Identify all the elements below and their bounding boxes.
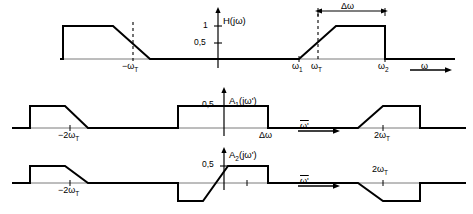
plot-h-xlabel-omega1-text: ω xyxy=(292,61,299,71)
plot-h-trace xyxy=(60,26,455,59)
plot-a2-ytick-label-half: 0,5 xyxy=(202,160,214,169)
delta-omega-measure-label: Δω xyxy=(341,2,354,11)
plot-a1-xlabel-2omega-t-text: 2ω xyxy=(374,130,386,140)
plot-a1-xlabel-2omega-t-sub: T xyxy=(386,135,390,142)
plot-h-x-axis-arrowhead xyxy=(445,67,452,73)
plot-a1-xlabel-minus-2omega-t-text: −2ω xyxy=(58,130,75,140)
plot-h-xlabel-omega2-sub: 2 xyxy=(385,66,389,73)
plot-h-xlabel-omega2-text: ω xyxy=(378,61,385,71)
plot-a2-y-axis-arrowhead xyxy=(221,147,226,153)
plot-a1-xlabel-delta-omega: Δω xyxy=(259,131,272,140)
plot-a1-ytick-label-half: 0,5 xyxy=(202,100,214,109)
plot-a1-xlabel-minus-2omega-t: −2ωT xyxy=(58,131,79,142)
plot-a2-xlabel-minus-2omega-t: −2ωT xyxy=(58,186,79,197)
plot-h-y-axis-label: H(jω) xyxy=(223,16,246,26)
plot-a1-trace xyxy=(12,106,466,128)
plot-a1-y-axis-label: A1(jω') xyxy=(229,96,257,108)
plot-a2-axis-variable-label: ω' xyxy=(300,177,309,186)
plot-h-xlabel-minus-omega-t: −ωT xyxy=(122,62,138,73)
plot-a1-axis-variable-label: ω' xyxy=(300,122,309,131)
plot-h-xlabel-omega-t: ωT xyxy=(311,62,322,73)
plot-a2-xlabel-2omega-t: 2ωT xyxy=(372,165,388,176)
plot-a1-y-axis-arrowhead xyxy=(221,87,226,93)
plot-a1-y-axis-label-arg: (jω') xyxy=(239,95,257,106)
plot-a2-xlabel-minus-2omega-t-text: −2ω xyxy=(58,185,75,195)
frequency-response-figure: 1 0,5 H(jω) −ωT ω1 ωT ω2 ω Δω 0,5 A1(jω'… xyxy=(0,0,473,214)
plot-h-xlabel-omega-t-sub: T xyxy=(318,66,322,73)
plot-h-group xyxy=(60,7,455,73)
plot-a2-x-axis-arrowhead xyxy=(333,183,340,189)
plot-a1-x-axis-arrowhead xyxy=(333,128,340,134)
plot-h-ytick-label-1: 1 xyxy=(203,21,208,30)
plot-a2-xlabel-2omega-t-sub: T xyxy=(384,169,388,176)
plot-h-xlabel-omega1-sub: 1 xyxy=(299,66,303,73)
plot-a1-xlabel-minus-2omega-t-sub: T xyxy=(75,135,79,142)
plot-h-xlabel-omega1: ω1 xyxy=(292,62,303,73)
plot-h-xlabel-minus-omega-t-sub: T xyxy=(134,66,138,73)
plot-a2-y-axis-label-arg: (jω') xyxy=(239,149,257,160)
plot-h-y-axis-arrowhead xyxy=(215,7,220,13)
plot-a2-y-axis-label: A2(jω') xyxy=(229,150,257,162)
plot-a2-xlabel-minus-2omega-t-sub: T xyxy=(75,190,79,197)
plot-h-axis-variable-label: ω xyxy=(421,62,428,71)
plot-h-xlabel-minus-omega-t-text: −ω xyxy=(122,61,134,71)
plot-h-y-axis-label-text: H(jω) xyxy=(223,15,246,26)
plot-a2-xlabel-2omega-t-text: 2ω xyxy=(372,164,384,174)
plot-h-xlabel-omega-t-text: ω xyxy=(311,61,318,71)
plot-h-ytick-label-half: 0,5 xyxy=(194,38,206,47)
plot-h-xlabel-omega2: ω2 xyxy=(378,62,389,73)
plot-a1-xlabel-2omega-t: 2ωT xyxy=(374,131,390,142)
